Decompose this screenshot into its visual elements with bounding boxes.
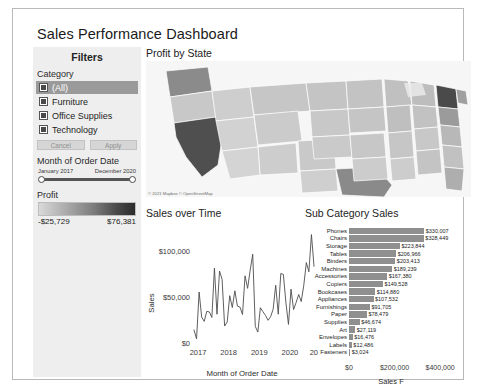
bar-value-label: $46,674 bbox=[361, 319, 381, 325]
filter-option-furniture[interactable]: Furniture bbox=[36, 95, 138, 108]
date-range-slider[interactable]: January 2017 December 2020 bbox=[38, 168, 136, 184]
bar-fill[interactable] bbox=[349, 258, 395, 264]
line-chart-svg[interactable]: $0$50,000$100,000 20172018201920202021 S… bbox=[146, 221, 318, 381]
bar-value-label: $328,449 bbox=[425, 235, 448, 241]
line-y-axis-label: Sales bbox=[147, 293, 156, 313]
filters-header: Filters bbox=[33, 47, 141, 63]
line-x-axis-label: Month of Order Date bbox=[206, 369, 277, 378]
line-x-tick: 2019 bbox=[251, 348, 268, 357]
bar-fill[interactable] bbox=[349, 342, 352, 348]
bar-row[interactable]: Paper$78,479 bbox=[349, 311, 388, 319]
bar-value-label: $330,007 bbox=[426, 228, 449, 234]
dashboard-screenshot: Sales Performance Dashboard Filters Cate… bbox=[0, 0, 478, 390]
bar-fill[interactable] bbox=[349, 228, 424, 234]
bar-fill[interactable] bbox=[349, 296, 374, 302]
date-start-label: January 2017 bbox=[38, 168, 73, 174]
bar-fill[interactable] bbox=[349, 304, 370, 310]
sales-line-series bbox=[194, 235, 314, 339]
sales-over-time-panel: Sales over Time $0$50,000$100,000 201720… bbox=[146, 207, 318, 382]
bar-category-label: Phones bbox=[327, 228, 347, 234]
checkbox-icon[interactable] bbox=[39, 97, 48, 106]
bar-row[interactable]: Appliances$107,532 bbox=[349, 295, 398, 303]
line-y-tick: $100,000 bbox=[159, 247, 190, 256]
bar-row[interactable]: Bookcases$114,880 bbox=[349, 288, 399, 296]
bar-category-label: Tables bbox=[330, 251, 347, 257]
apply-button[interactable]: Apply bbox=[90, 140, 138, 150]
bar-fill[interactable] bbox=[349, 319, 360, 325]
bar-fill[interactable] bbox=[349, 326, 355, 332]
bar-fill[interactable] bbox=[349, 288, 375, 294]
bar-x-axis-label: Sales F bbox=[305, 377, 477, 386]
bar-row[interactable]: Furnishings$91,705 bbox=[349, 303, 391, 311]
filter-option-label: Technology bbox=[52, 125, 98, 135]
bar-category-label: Paper bbox=[331, 311, 347, 317]
bar-category-label: Storage bbox=[326, 243, 347, 249]
bar-category-label: Copiers bbox=[326, 281, 347, 287]
bar-row[interactable]: Storage$223,844 bbox=[349, 242, 424, 250]
bar-value-label: $78,479 bbox=[368, 311, 388, 317]
bar-row[interactable]: Chairs$328,449 bbox=[349, 235, 448, 243]
sub-category-sales-panel: Sub Category Sales $0$200,000$400,000 Sa… bbox=[305, 207, 477, 382]
map-attribution: © 2021 Mapbox © OpenStreetMap bbox=[148, 191, 213, 196]
bar-fill[interactable] bbox=[349, 349, 350, 355]
bar-row[interactable]: Labels$12,486 bbox=[349, 341, 373, 349]
profit-by-state-map[interactable]: © 2021 Mapbox © OpenStreetMap bbox=[146, 61, 471, 197]
bar-value-label: $203,413 bbox=[397, 258, 420, 264]
bar-value-label: $27,119 bbox=[357, 327, 376, 333]
bar-row[interactable]: Accessories$167,380 bbox=[349, 273, 412, 281]
us-states-choropleth[interactable] bbox=[146, 61, 471, 197]
sales-over-time-chart[interactable]: $0$50,000$100,000 20172018201920202021 S… bbox=[146, 221, 318, 381]
bar-row[interactable]: Copiers$149,528 bbox=[349, 280, 408, 288]
bar-fill[interactable] bbox=[349, 273, 387, 279]
bar-fill[interactable] bbox=[349, 243, 400, 249]
filter-option-technology[interactable]: Technology bbox=[36, 123, 138, 136]
bar-category-label: Binders bbox=[327, 258, 347, 264]
map-panel: Profit by State bbox=[146, 47, 471, 199]
bar-category-label: Envelopes bbox=[319, 334, 347, 340]
bar-value-label: $206,966 bbox=[398, 251, 421, 257]
line-x-tick: 2020 bbox=[282, 348, 299, 357]
line-x-tick: 2017 bbox=[190, 348, 207, 357]
bar-value-label: $3,024 bbox=[352, 349, 369, 355]
filter-option-office-supplies[interactable]: Office Supplies bbox=[36, 109, 138, 122]
bar-category-label: Appliances bbox=[318, 296, 347, 302]
bar-row[interactable]: Fasteners$3,024 bbox=[349, 349, 369, 357]
checkbox-icon[interactable] bbox=[39, 111, 48, 120]
bar-row[interactable]: Envelopes$16,476 bbox=[349, 333, 374, 341]
bar-value-label: $16,476 bbox=[354, 334, 374, 340]
slider-track[interactable] bbox=[38, 175, 136, 184]
bar-row[interactable]: Supplies$46,674 bbox=[349, 318, 381, 326]
bar-row[interactable]: Phones$330,007 bbox=[349, 227, 449, 235]
bar-category-label: Supplies bbox=[324, 319, 347, 325]
profit-legend-label: Profit bbox=[37, 190, 141, 200]
bar-fill[interactable] bbox=[349, 334, 353, 340]
checkbox-icon[interactable] bbox=[39, 83, 48, 92]
bar-fill[interactable] bbox=[349, 281, 383, 287]
dashboard-frame: Sales Performance Dashboard Filters Cate… bbox=[12, 8, 464, 380]
map-title: Profit by State bbox=[146, 47, 471, 59]
bar-x-tick: $200,000 bbox=[380, 364, 409, 371]
slider-handle-left[interactable] bbox=[38, 176, 45, 183]
bar-row[interactable]: Tables$206,966 bbox=[349, 250, 421, 258]
filter-option-label: (All) bbox=[52, 83, 68, 93]
bar-fill[interactable] bbox=[349, 235, 424, 241]
bar-value-label: $12,486 bbox=[353, 342, 373, 348]
checkbox-icon[interactable] bbox=[39, 125, 48, 134]
bar-fill[interactable] bbox=[349, 311, 367, 317]
filter-button-row: Cancel Apply bbox=[37, 140, 137, 150]
sub-category-sales-chart[interactable]: $0$200,000$400,000 Sales F Phones$330,00… bbox=[305, 221, 477, 383]
bar-row[interactable]: Binders$203,413 bbox=[349, 257, 420, 265]
bar-x-tick: $400,000 bbox=[426, 364, 455, 371]
bar-category-label: Labels bbox=[329, 342, 347, 348]
cancel-button[interactable]: Cancel bbox=[37, 140, 85, 150]
bar-row[interactable]: Machines$189,239 bbox=[349, 265, 417, 273]
filter-option-all[interactable]: (All) bbox=[36, 81, 138, 94]
bar-fill[interactable] bbox=[349, 250, 396, 256]
date-end-label: December 2020 bbox=[95, 168, 136, 174]
page-title: Sales Performance Dashboard bbox=[37, 26, 238, 42]
bar-fill[interactable] bbox=[349, 266, 392, 272]
category-filter-label: Category bbox=[37, 69, 141, 79]
slider-handle-right[interactable] bbox=[129, 176, 136, 183]
bar-value-label: $167,380 bbox=[389, 273, 412, 279]
bar-row[interactable]: Art$27,119 bbox=[349, 326, 376, 334]
